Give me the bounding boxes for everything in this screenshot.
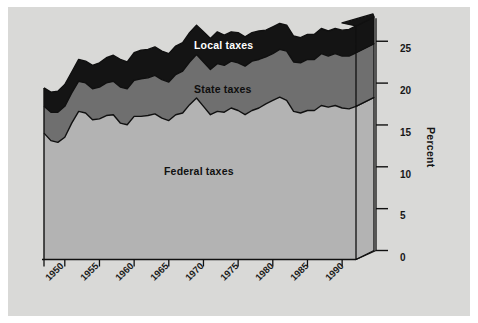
- ytick-label-15: 15: [400, 127, 411, 138]
- series-label-local: Local taxes: [194, 39, 253, 51]
- ytick-label-5: 5: [400, 210, 406, 221]
- stacked-area-chart: 0 5 10 15 20 25 Percent 1950 1955 1960 1…: [8, 7, 470, 316]
- y-axis-title: Percent: [425, 127, 437, 168]
- ytick-label-10: 10: [400, 169, 411, 180]
- ytick-label-0: 0: [400, 252, 406, 263]
- screenshot-page: 0 5 10 15 20 25 Percent 1950 1955 1960 1…: [0, 0, 478, 323]
- ytick-label-25: 25: [400, 43, 411, 54]
- ytick-label-20: 20: [400, 85, 411, 96]
- series-label-state: State taxes: [194, 83, 252, 95]
- area-bands: [44, 23, 356, 259]
- figure-plate: 0 5 10 15 20 25 Percent 1950 1955 1960 1…: [8, 7, 470, 316]
- series-label-federal: Federal taxes: [164, 165, 234, 177]
